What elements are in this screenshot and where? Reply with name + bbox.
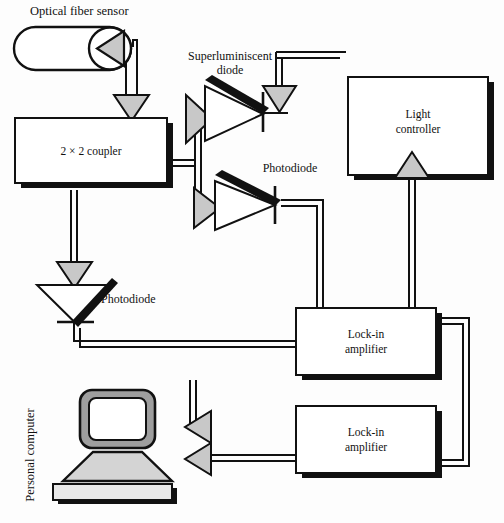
block-diagram: Optical fiber sensor 2 × 2 coupler Super…: [0, 0, 504, 523]
photodiode-left-label: Photodiode: [101, 292, 156, 306]
sld-label-line1: Superluminiscent: [188, 49, 273, 63]
lockin-top-body: [296, 308, 436, 375]
keyboard-body: [53, 484, 172, 500]
sld-label-line2: diode: [217, 63, 244, 77]
optical-fiber-sensor-label: Optical fiber sensor: [30, 4, 129, 18]
wire-coupler-to-photodiode-left: [71, 190, 77, 262]
lockin-bottom-label-line1: Lock-in: [348, 426, 385, 438]
arrow-lockin-top-to-computer: [185, 411, 211, 443]
coupler-label: 2 × 2 coupler: [60, 145, 121, 158]
light-controller-label-line1: Light: [406, 108, 432, 121]
lockin-bottom-label-line2: amplifier: [345, 441, 387, 454]
lockin-amplifier-bottom-box[interactable]: Lock-in amplifier: [296, 406, 442, 478]
lockin-amplifier-top-box[interactable]: Lock-in amplifier: [296, 308, 442, 380]
arrow-lockin-bottom-to-computer: [185, 443, 211, 475]
lockin-bottom-body: [296, 406, 436, 473]
wire-lightcontroller-to-sld: [276, 52, 346, 86]
monitor-screen: [89, 398, 146, 440]
photodiode-right[interactable]: [194, 170, 281, 230]
photodiode-right-label: Photodiode: [263, 161, 318, 175]
wire-photodiode-right-to-lockin: [281, 200, 323, 318]
light-controller-label-line2: controller: [396, 123, 441, 135]
personal-computer-label: Personal computer: [23, 407, 37, 501]
optical-fiber-sensor[interactable]: [14, 27, 131, 70]
lockin-top-label-line1: Lock-in: [348, 328, 385, 340]
wire-photodiode-left-to-lockin: [74, 322, 296, 347]
personal-computer[interactable]: [53, 390, 177, 504]
computer-base: [63, 452, 172, 481]
coupler-box[interactable]: 2 × 2 coupler: [15, 118, 173, 188]
lockin-top-label-line2: amplifier: [345, 343, 387, 356]
diagram-canvas: Optical fiber sensor 2 × 2 coupler Super…: [0, 0, 504, 523]
wire-lockin-bottom-to-computer: [211, 455, 296, 461]
wire-lockin-to-lightcontroller: [409, 178, 415, 307]
wire-lockin-top-to-bottom: [441, 318, 469, 466]
